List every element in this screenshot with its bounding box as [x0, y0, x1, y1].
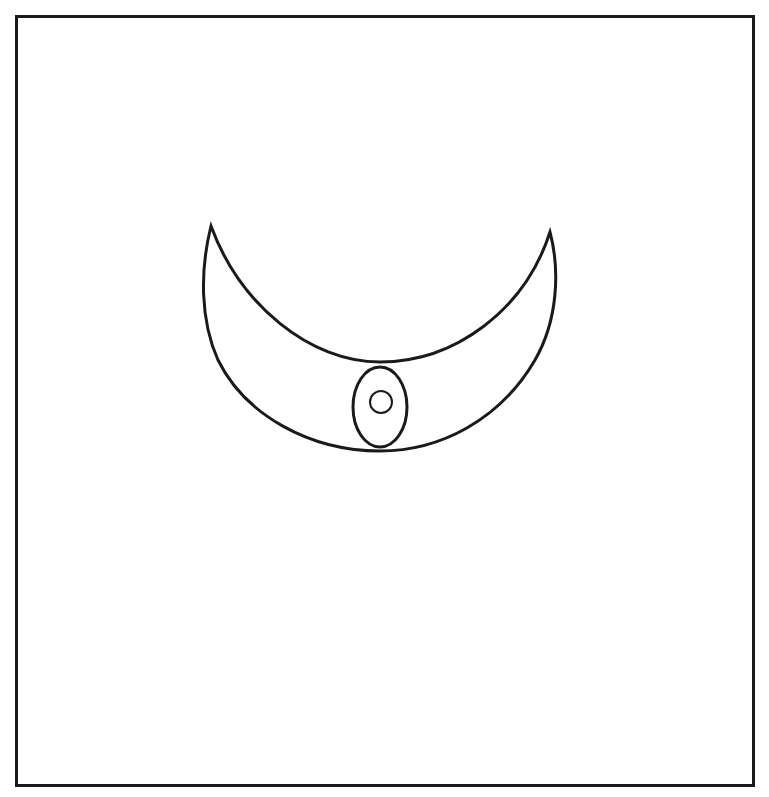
- inner-circle-shape: [370, 391, 392, 413]
- crescent-shape: [203, 226, 555, 451]
- crescent-diagram: [0, 0, 769, 797]
- oval-shape: [353, 367, 407, 447]
